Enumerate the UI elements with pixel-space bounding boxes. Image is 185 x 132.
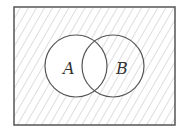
venn-diagram: A B: [0, 0, 185, 132]
set-a-label: A: [61, 59, 75, 78]
set-b-label: B: [115, 59, 128, 78]
